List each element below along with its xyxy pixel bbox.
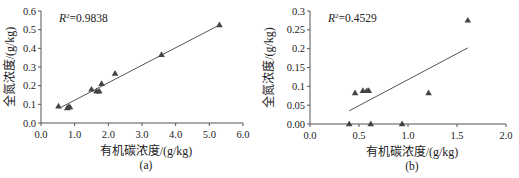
- y-tick-label: 0.4: [23, 43, 37, 54]
- y-tick-label: 0.05: [287, 100, 305, 111]
- x-tick-label: 6.0: [236, 129, 249, 140]
- figure-caption: (a): [140, 159, 153, 172]
- triangle-marker: [425, 90, 432, 96]
- x-tick-label: 4.0: [169, 129, 182, 140]
- triangle-marker: [399, 121, 406, 127]
- y-tick-label: 0.0: [23, 118, 36, 129]
- y-tick-label: 0.3: [292, 6, 305, 17]
- x-tick-label: 3.0: [135, 129, 148, 140]
- r-value: =0.4529: [339, 12, 377, 24]
- y-tick-label: 0.3: [23, 62, 36, 73]
- y-tick-label: 0.1: [292, 81, 305, 92]
- triangle-marker: [98, 80, 105, 86]
- r-symbol: R: [327, 12, 335, 24]
- y-tick-label: 0.15: [287, 62, 305, 73]
- x-tick-label: 2.0: [499, 130, 512, 141]
- y-tick-label: 0.6: [23, 6, 36, 17]
- triangle-marker: [112, 70, 119, 76]
- x-tick-label: 0.0: [303, 130, 316, 141]
- triangle-marker: [367, 121, 374, 127]
- y-axis-title: 全氮浓度/(g/kg): [2, 27, 17, 108]
- x-tick-label: 1.0: [401, 130, 414, 141]
- y-tick-label: 0.25: [287, 24, 305, 35]
- x-tick-label: 0.5: [352, 130, 365, 141]
- chart-panel-a: 0.00.10.20.30.40.50.60.01.02.03.04.05.06…: [0, 0, 259, 178]
- trendline: [60, 25, 220, 108]
- x-tick-label: 5.0: [203, 129, 216, 140]
- r-squared-label: R2=0.9838: [58, 12, 108, 24]
- chart-panel-b: 0.000.050.10.150.20.250.30.00.51.01.52.0…: [259, 0, 519, 178]
- triangle-marker: [346, 121, 353, 127]
- triangle-marker: [88, 86, 95, 92]
- y-axis-title: 全氮浓度/(g/kg): [261, 27, 276, 108]
- triangle-marker: [55, 103, 62, 109]
- x-tick-label: 2.0: [102, 129, 115, 140]
- figure-caption: (b): [405, 160, 419, 173]
- triangle-marker: [216, 22, 223, 28]
- y-tick-label: 0.2: [23, 80, 36, 91]
- y-tick-label: 0.1: [23, 99, 36, 110]
- triangle-marker: [352, 90, 359, 96]
- y-tick-label: 0.5: [23, 24, 36, 35]
- x-axis-title: 有机碳浓度/(g/kg): [366, 144, 459, 159]
- r-value: =0.9838: [70, 12, 108, 24]
- x-tick-label: 1.5: [450, 130, 463, 141]
- r-squared-label: R2=0.4529: [327, 12, 377, 24]
- scatter-chart-a: 0.00.10.20.30.40.50.60.01.02.03.04.05.06…: [0, 0, 259, 178]
- scatter-chart-b: 0.000.050.10.150.20.250.30.00.51.01.52.0…: [259, 0, 519, 178]
- x-tick-label: 1.0: [68, 129, 81, 140]
- x-axis-title: 有机碳浓度/(g/kg): [100, 143, 193, 158]
- r-symbol: R: [58, 12, 66, 24]
- trendline: [349, 48, 468, 111]
- y-tick-label: 0.00: [287, 119, 305, 130]
- triangle-marker: [464, 17, 471, 23]
- y-tick-label: 0.2: [292, 43, 305, 54]
- x-tick-label: 0.0: [34, 129, 47, 140]
